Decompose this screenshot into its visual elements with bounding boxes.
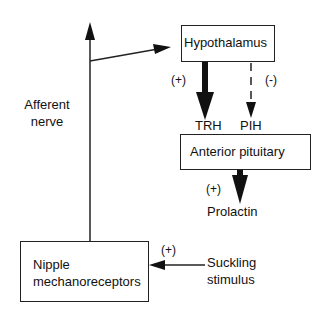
afferent-line2: nerve <box>17 113 77 130</box>
afferent-line1: Afferent <box>17 96 77 113</box>
nipple-line1: Nipple <box>33 256 70 273</box>
prolactin-effect-sign: (+) <box>206 182 221 196</box>
suckling-stimulus-label: Suckling stimulus <box>207 254 256 288</box>
branch-arrowhead-icon <box>153 44 171 54</box>
trh-label: TRH <box>195 118 222 134</box>
trh-effect-sign: (+) <box>171 73 186 87</box>
suckling-arrowhead-icon <box>149 260 165 270</box>
prolactin-label: Prolactin <box>207 204 258 220</box>
trh-arrowhead-icon <box>196 92 214 120</box>
nipple-line2: mechanoreceptors <box>33 273 141 290</box>
hypothalamus-box: Hypothalamus <box>181 25 275 62</box>
pih-label: PIH <box>240 118 262 134</box>
afferent-arrowhead-icon <box>85 22 95 40</box>
pih-effect-sign: (-) <box>265 73 277 87</box>
afferent-nerve-label: Afferent nerve <box>17 96 77 130</box>
suckling-effect-sign: (+) <box>161 243 176 257</box>
trh-arrow-shaft <box>202 62 208 96</box>
suckling-line1: Suckling <box>207 254 256 271</box>
hypothalamus-label: Hypothalamus <box>184 35 267 51</box>
branch-to-hypothalamus-line <box>90 49 158 61</box>
nipple-mechanoreceptors-box: Nipple mechanoreceptors <box>20 241 149 302</box>
prolactin-arrowhead-icon <box>232 175 248 204</box>
anterior-pituitary-label: Anterior pituitary <box>190 144 285 160</box>
anterior-pituitary-box: Anterior pituitary <box>180 134 311 170</box>
pih-arrowhead-icon <box>246 102 256 118</box>
suckling-line2: stimulus <box>207 271 256 288</box>
